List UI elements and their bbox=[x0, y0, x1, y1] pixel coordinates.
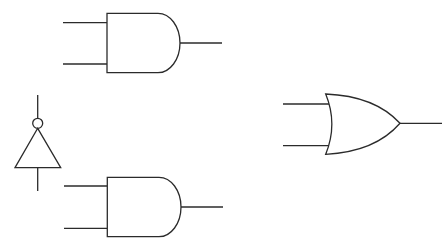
and-gate-icon bbox=[107, 177, 181, 236]
or-gate-icon bbox=[326, 94, 400, 154]
or-gate bbox=[283, 94, 442, 154]
and-gate-icon bbox=[107, 13, 180, 72]
logic-gate-diagram bbox=[0, 0, 448, 247]
not-bubble-icon bbox=[33, 118, 43, 128]
and-gate-bottom bbox=[64, 177, 223, 236]
not-gate bbox=[15, 95, 61, 191]
and-gate-top bbox=[63, 13, 222, 72]
not-gate-icon bbox=[15, 128, 61, 167]
